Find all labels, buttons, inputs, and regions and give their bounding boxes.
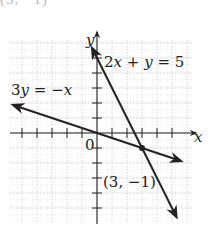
line-label-2x-plus-y-eq-5: 2x + y = 5	[104, 53, 184, 71]
origin-label: 0	[85, 136, 95, 154]
x-axis-label: x	[194, 128, 203, 146]
coordinate-graph: y x 0 2x + y = 5 3y = −x (3, −1)	[0, 0, 209, 229]
line-label-3y-eq-neg-x: 3y = −x	[11, 81, 73, 99]
y-axis-label: y	[85, 31, 95, 49]
intersection-point	[139, 145, 145, 151]
intersection-label: (3, −1)	[103, 173, 156, 191]
